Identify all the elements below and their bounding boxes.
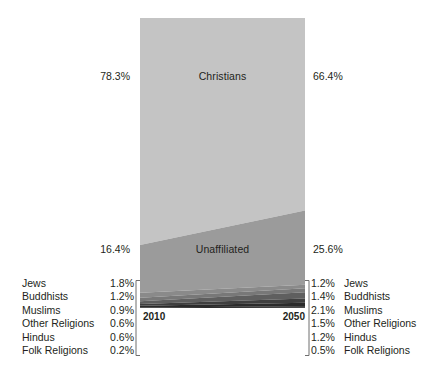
legend-left-value-3: 0.6% bbox=[96, 317, 134, 330]
legend-right-item-1: Buddhists bbox=[344, 290, 436, 303]
legend-left-value-5: 0.2% bbox=[96, 344, 134, 357]
value-christians-2050: 66.4% bbox=[313, 70, 343, 82]
value-unaffiliated-2010: 16.4% bbox=[72, 243, 130, 255]
legend-right-values: 1.2%1.4%2.1%1.5%1.2%0.5% bbox=[311, 277, 343, 357]
stacked-area-chart: Christians Unaffiliated 78.3% 66.4% 16.4… bbox=[0, 0, 438, 368]
legend-right-value-2: 2.1% bbox=[311, 304, 343, 317]
legend-left-values: 1.8%1.2%0.9%0.6%0.6%0.2% bbox=[96, 277, 134, 357]
legend-right: JewsBuddhistsMuslimsOther ReligionsHindu… bbox=[344, 277, 436, 357]
legend-left-value-1: 1.2% bbox=[96, 290, 134, 303]
legend-right-item-4: Hindus bbox=[344, 331, 436, 344]
legend-right-value-0: 1.2% bbox=[311, 277, 343, 290]
value-christians-2010: 78.3% bbox=[72, 70, 130, 82]
band-label-christians: Christians bbox=[140, 70, 305, 82]
legend-right-value-3: 1.5% bbox=[311, 317, 343, 330]
leader-bracket-right bbox=[305, 280, 310, 356]
legend-right-value-1: 1.4% bbox=[311, 290, 343, 303]
legend-right-value-5: 0.5% bbox=[311, 344, 343, 357]
legend-right-item-2: Muslims bbox=[344, 304, 436, 317]
stacked-bands bbox=[140, 18, 305, 308]
legend-right-item-0: Jews bbox=[344, 277, 436, 290]
value-unaffiliated-2050: 25.6% bbox=[313, 243, 343, 255]
legend-left-value-4: 0.6% bbox=[96, 331, 134, 344]
band-label-unaffiliated: Unaffiliated bbox=[140, 243, 305, 255]
area-band-christians bbox=[140, 18, 305, 245]
legend-left-value-0: 1.8% bbox=[96, 277, 134, 290]
legend-right-value-4: 1.2% bbox=[311, 331, 343, 344]
legend-right-item-3: Other Religions bbox=[344, 317, 436, 330]
axis-label-2050: 2050 bbox=[283, 311, 305, 322]
axis-label-2010: 2010 bbox=[143, 311, 165, 322]
plot-area bbox=[140, 18, 305, 308]
legend-left-value-2: 0.9% bbox=[96, 304, 134, 317]
leader-bracket-left bbox=[135, 280, 140, 356]
legend-right-item-5: Folk Religions bbox=[344, 344, 436, 357]
